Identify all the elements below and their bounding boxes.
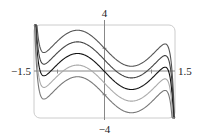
x-min-label: −1.5 <box>11 65 31 77</box>
chart: 4 −4 −1.5 1.5 <box>0 0 205 137</box>
y-min-label: −4 <box>99 123 111 135</box>
x-max-label: 1.5 <box>178 65 192 77</box>
y-max-label: 4 <box>102 7 108 19</box>
